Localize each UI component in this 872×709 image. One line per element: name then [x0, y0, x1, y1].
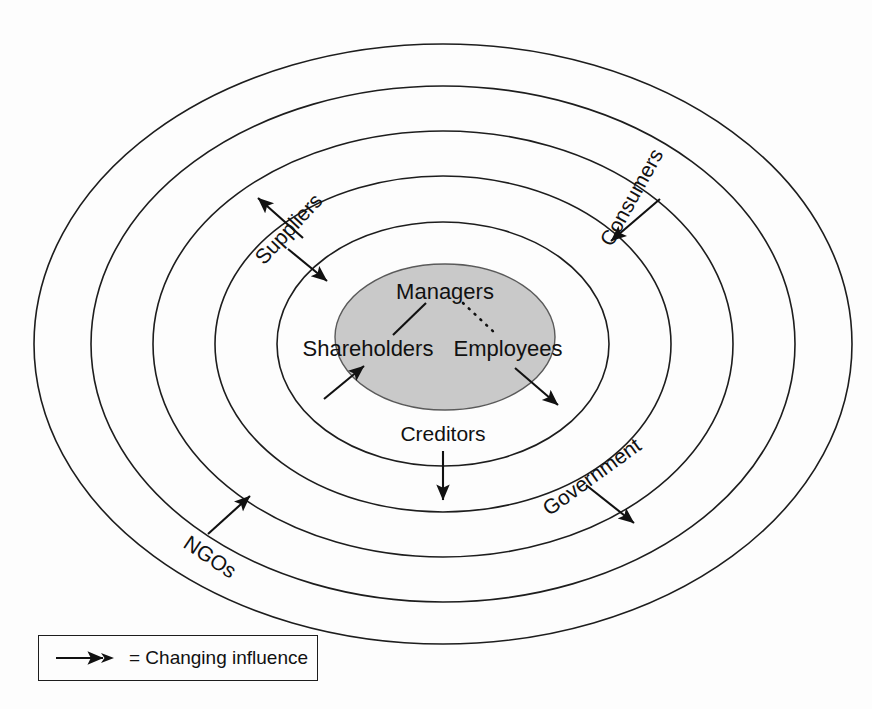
- suppliers-arrow-inward: [288, 249, 327, 281]
- legend-label: = Changing influence: [129, 647, 308, 669]
- label-consumers: Consumers: [595, 145, 667, 250]
- legend: = Changing influence: [38, 635, 318, 681]
- arrow-right-icon: [55, 650, 117, 666]
- ngos-arrow-inward: [208, 496, 250, 534]
- core-label-employees: Employees: [454, 336, 563, 361]
- core-label-shareholders: Shareholders: [303, 336, 434, 361]
- core-label-managers: Managers: [396, 279, 494, 304]
- diagram-page: Managers Shareholders Employees Supplier…: [0, 0, 872, 709]
- label-creditors: Creditors: [400, 422, 485, 445]
- stakeholder-diagram: Managers Shareholders Employees Supplier…: [0, 0, 872, 709]
- label-ngos: NGOs: [180, 531, 241, 583]
